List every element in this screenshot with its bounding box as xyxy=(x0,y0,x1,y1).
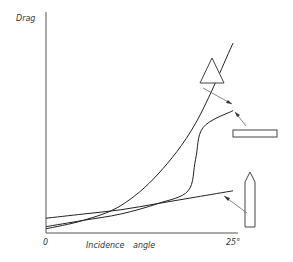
curve-flat-plate xyxy=(46,111,233,227)
x-axis-label: Incidence angle xyxy=(86,241,155,250)
triangle-pointer-arrowhead xyxy=(226,100,232,104)
x-tick-0: 0 xyxy=(43,238,48,247)
rectangle-shape-icon xyxy=(233,130,277,137)
bullet-shape-icon xyxy=(245,172,255,227)
curve-triangle xyxy=(46,43,233,229)
plate-pointer-arrowhead xyxy=(235,112,240,117)
x-tick-25: 25° xyxy=(226,238,240,247)
curve-pointed-body xyxy=(46,191,233,218)
drag-chart: Drag 0 25° Incidence angle xyxy=(0,0,293,262)
y-axis-label: Drag xyxy=(16,14,35,23)
